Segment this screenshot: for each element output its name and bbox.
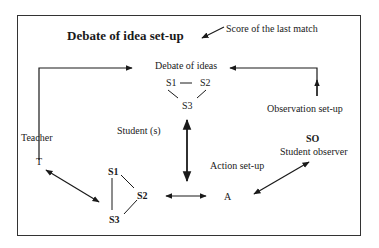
observation-label: Observation set-up: [267, 104, 343, 114]
action-node-s1: S1: [108, 167, 119, 177]
action-node: A: [224, 192, 231, 202]
connector-lines: [0, 0, 379, 248]
debate-node-s1: S1: [166, 78, 177, 88]
student-label: Student (s): [117, 126, 161, 136]
score-label: Score of the last match: [226, 24, 318, 34]
debate-node-s3: S3: [182, 101, 193, 111]
teacher-label: Teacher: [21, 133, 53, 143]
debate-label: Debate of ideas: [155, 61, 217, 71]
diagram-title: Debate of idea set-up: [67, 29, 184, 42]
action-label: Action set-up: [210, 161, 264, 171]
observer-node: SO: [306, 134, 319, 144]
teacher-node: T: [36, 157, 42, 167]
action-node-s2: S2: [137, 191, 148, 201]
action-node-s3: S3: [109, 215, 120, 225]
observer-label: Student observer: [280, 147, 348, 157]
debate-node-s2: S2: [200, 78, 211, 88]
